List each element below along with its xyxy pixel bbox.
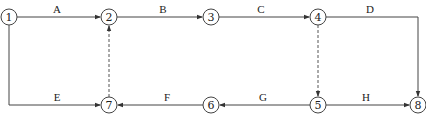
edge-a: A <box>17 3 100 17</box>
node-4: 4 <box>310 9 326 25</box>
edge-h: H <box>326 91 409 105</box>
edge-label-a: A <box>53 3 61 15</box>
node-label-1: 1 <box>6 11 13 24</box>
node-label-8: 8 <box>415 99 422 112</box>
node-3: 3 <box>203 9 219 25</box>
edge-d: D <box>326 3 418 96</box>
edge-label-c: C <box>257 3 264 15</box>
node-label-3: 3 <box>208 11 215 24</box>
edge-c: C <box>219 3 309 17</box>
node-label-5: 5 <box>315 99 322 112</box>
node-5: 5 <box>310 97 326 113</box>
node-label-7: 7 <box>106 99 113 112</box>
node-label-2: 2 <box>106 11 113 24</box>
edge-b: B <box>117 3 202 17</box>
edge-e: E <box>9 25 100 105</box>
network-diagram: A B C D E F G H 1 <box>0 0 426 123</box>
node-8: 8 <box>410 97 426 113</box>
node-6: 6 <box>203 97 219 113</box>
edge-f: F <box>118 91 203 105</box>
edge-label-h: H <box>362 91 370 103</box>
node-label-4: 4 <box>315 11 322 24</box>
edge-label-f: F <box>164 91 170 103</box>
edge-g: G <box>220 91 310 105</box>
edge-label-d: D <box>366 3 374 15</box>
edge-label-g: G <box>259 91 267 103</box>
edge-label-e: E <box>54 91 61 103</box>
edge-label-b: B <box>159 3 166 15</box>
node-2: 2 <box>101 9 117 25</box>
node-1: 1 <box>1 9 17 25</box>
node-7: 7 <box>101 97 117 113</box>
node-label-6: 6 <box>208 99 215 112</box>
